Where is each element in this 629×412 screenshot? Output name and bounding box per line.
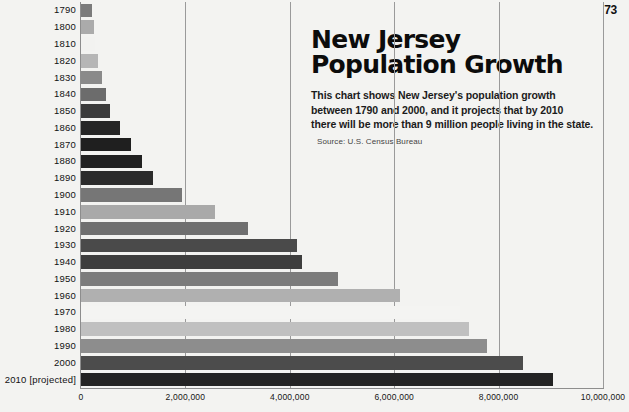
bar xyxy=(81,71,102,85)
x-tick-label: 0 xyxy=(79,392,84,402)
y-tick-label: 1880 xyxy=(0,155,76,166)
y-tick-label: 1800 xyxy=(0,21,76,32)
bar-row xyxy=(81,371,603,388)
bar-row xyxy=(81,2,603,19)
bar-row xyxy=(81,321,603,338)
y-tick-label: 1940 xyxy=(0,256,76,267)
y-tick-label: 1960 xyxy=(0,290,76,301)
y-tick-label: 1850 xyxy=(0,105,76,116)
bar xyxy=(81,205,215,219)
bar-row xyxy=(81,237,603,254)
x-tick-label: 8,000,000 xyxy=(479,392,519,402)
bar xyxy=(81,171,153,185)
y-tick-label: 1790 xyxy=(0,4,76,15)
bar xyxy=(81,272,338,286)
y-tick-label: 1990 xyxy=(0,340,76,351)
bar xyxy=(81,20,94,34)
bar-row xyxy=(81,271,603,288)
x-tick-label: 10,000,000 xyxy=(581,392,626,402)
bar-row xyxy=(81,287,603,304)
gridline xyxy=(603,2,604,388)
x-tick-label: 6,000,000 xyxy=(374,392,414,402)
bar xyxy=(81,356,523,370)
bar xyxy=(81,54,98,68)
bar xyxy=(81,239,297,253)
y-tick-label: 1900 xyxy=(0,189,76,200)
bar-row xyxy=(81,354,603,371)
bar-row xyxy=(81,52,603,69)
bar-row xyxy=(81,203,603,220)
bar xyxy=(81,138,131,152)
bar-row xyxy=(81,153,603,170)
y-tick-label: 1870 xyxy=(0,139,76,150)
bar-row xyxy=(81,220,603,237)
x-tick-label: 4,000,000 xyxy=(270,392,310,402)
plot-area xyxy=(81,2,603,388)
bar-row xyxy=(81,338,603,355)
y-tick-label: 1930 xyxy=(0,239,76,250)
bar-row xyxy=(81,36,603,53)
bar xyxy=(81,104,110,118)
y-tick-label: 1810 xyxy=(0,38,76,49)
bar xyxy=(81,37,95,51)
bar-row xyxy=(81,119,603,136)
bar-row xyxy=(81,103,603,120)
bar-row xyxy=(81,136,603,153)
bar-row xyxy=(81,254,603,271)
bar-row xyxy=(81,170,603,187)
y-tick-label: 1920 xyxy=(0,223,76,234)
bar xyxy=(81,121,120,135)
x-axis-line xyxy=(80,388,604,389)
bar xyxy=(81,255,302,269)
y-tick-label: 1980 xyxy=(0,323,76,334)
y-tick-label: 1910 xyxy=(0,206,76,217)
y-tick-label: 1820 xyxy=(0,55,76,66)
y-tick-label: 2010 [projected] xyxy=(0,374,76,385)
bar xyxy=(81,289,400,303)
bar-row xyxy=(81,187,603,204)
y-tick-label: 1950 xyxy=(0,273,76,284)
y-tick-label: 1890 xyxy=(0,172,76,183)
y-tick-label: 1970 xyxy=(0,306,76,317)
bar-row xyxy=(81,19,603,36)
bar xyxy=(81,373,553,387)
population-bar-chart: 02,000,0004,000,0006,000,0008,000,00010,… xyxy=(0,0,629,412)
chart-page: 73 New Jersey Population Growth This cha… xyxy=(0,0,629,412)
bar xyxy=(81,88,106,102)
y-tick-label: 1840 xyxy=(0,88,76,99)
bar xyxy=(81,188,182,202)
bar-row xyxy=(81,304,603,321)
bar-row xyxy=(81,86,603,103)
bar xyxy=(81,306,460,320)
y-tick-label: 1830 xyxy=(0,72,76,83)
bar xyxy=(81,322,469,336)
bar xyxy=(81,339,487,353)
bar-row xyxy=(81,69,603,86)
bar xyxy=(81,4,92,18)
bar xyxy=(81,155,142,169)
y-tick-label: 1860 xyxy=(0,122,76,133)
bar xyxy=(81,222,248,236)
x-tick-label: 2,000,000 xyxy=(166,392,206,402)
y-tick-label: 2000 xyxy=(0,357,76,368)
